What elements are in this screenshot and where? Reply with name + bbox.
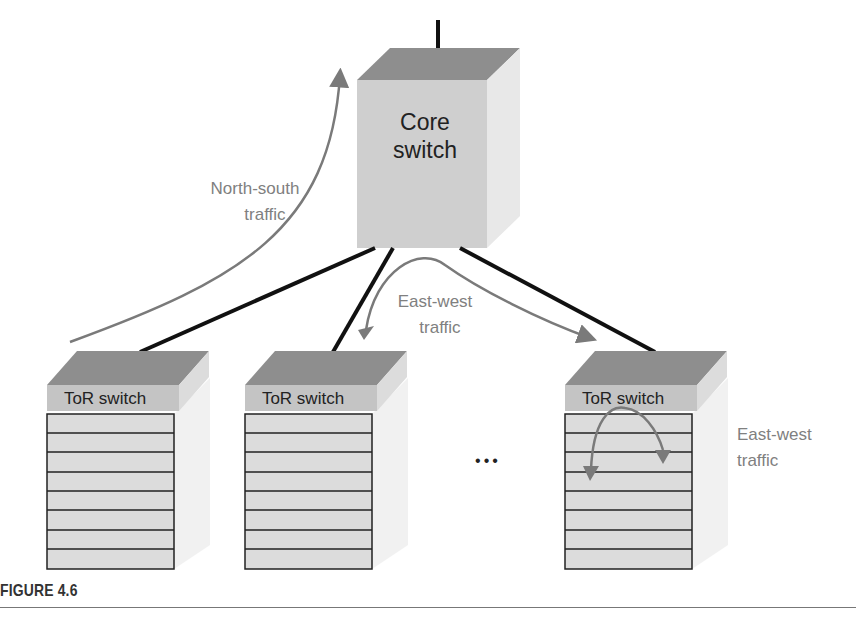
tor-switch-label: ToR switch xyxy=(64,389,146,408)
core-switch: Core switch xyxy=(357,48,520,248)
more-racks-ellipsis: ••• xyxy=(475,452,501,469)
rack-3: ToR switch xyxy=(565,351,728,569)
east-west-core-label-line1: East-west xyxy=(398,292,473,311)
tor-switch-label: ToR switch xyxy=(582,389,664,408)
north-south-traffic-arrow xyxy=(70,75,340,342)
east-west-core-arrowhead-left xyxy=(358,326,374,340)
east-west-rack-label-line2: traffic xyxy=(737,451,779,470)
core-switch-label-line2: switch xyxy=(393,137,457,163)
north-south-label-line1: North-south xyxy=(211,179,300,198)
core-switch-front xyxy=(357,80,487,248)
rack-1: ToR switch xyxy=(47,351,210,569)
tor-switch-label: ToR switch xyxy=(262,389,344,408)
network-diagram: Core switch North-south traffic East-wes… xyxy=(0,0,856,621)
core-switch-label-line1: Core xyxy=(400,109,450,135)
core-switch-side xyxy=(487,48,520,248)
server-rows xyxy=(47,414,174,569)
north-south-label-line2: traffic xyxy=(244,205,286,224)
rack-2: ToR switch xyxy=(245,351,408,569)
east-west-rack-label-line1: East-west xyxy=(737,425,812,444)
server-rows xyxy=(245,414,372,569)
link-core-tor3 xyxy=(460,248,655,352)
server-rows xyxy=(565,414,692,569)
east-west-core-label-line2: traffic xyxy=(419,318,461,337)
caption-rule xyxy=(0,607,856,608)
figure-caption: FIGURE 4.6 xyxy=(0,581,78,601)
